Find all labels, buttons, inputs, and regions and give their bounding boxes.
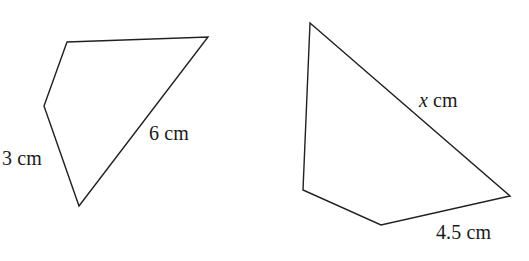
right-quadrilateral-outline (303, 23, 510, 225)
label-left-side-3cm: 3 cm (2, 148, 42, 168)
label-right-x-unit: cm (433, 89, 458, 111)
label-left-6cm-number: 6 (149, 122, 159, 144)
label-right-side-4point5cm: 4.5 cm (436, 222, 491, 242)
label-right-x-variable: x (419, 89, 428, 111)
label-left-3cm-number: 3 (2, 147, 12, 169)
geometry-figure-canvas: 3 cm 6 cm x cm 4.5 cm (0, 0, 529, 261)
label-left-3cm-unit: cm (17, 147, 42, 169)
label-left-side-6cm: 6 cm (149, 123, 189, 143)
label-right-45-number: 4.5 (436, 221, 461, 243)
label-right-45-unit: cm (466, 221, 491, 243)
label-left-6cm-unit: cm (164, 122, 189, 144)
label-right-side-x: x cm (419, 90, 458, 110)
